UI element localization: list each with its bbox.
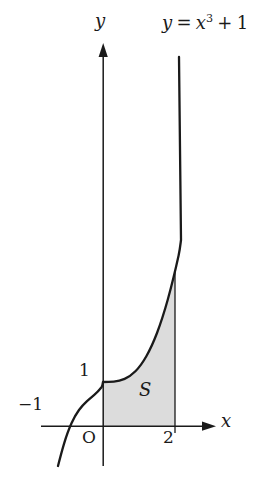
- equation-constant: 1: [237, 12, 249, 33]
- origin-label: O: [82, 429, 96, 446]
- equation-y: y: [162, 12, 172, 33]
- equation-plus: +: [217, 12, 232, 33]
- region-label-s: S: [139, 381, 151, 399]
- x-axis-arrowhead: [202, 422, 216, 431]
- shaded-region-s: [103, 272, 175, 426]
- curve-equation-label: y=x3+1: [162, 14, 248, 32]
- x-tick-label-negative-1: −1: [18, 396, 43, 413]
- x-tick-label-2: 2: [163, 429, 174, 446]
- equation-exponent: 3: [206, 12, 213, 25]
- equation-equals: =: [176, 12, 191, 33]
- y-axis-label: y: [95, 12, 105, 30]
- equation-x: x: [196, 12, 206, 33]
- y-tick-label-1: 1: [79, 362, 90, 379]
- y-axis-arrowhead: [99, 43, 108, 57]
- x-axis-label: x: [221, 412, 231, 430]
